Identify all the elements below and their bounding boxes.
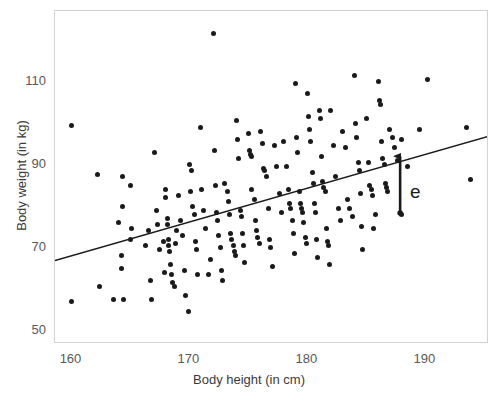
residual-base-point [397, 210, 403, 216]
x-tick-label: 170 [158, 352, 218, 365]
residual-label: e [410, 182, 421, 201]
x-tick-label: 160 [41, 352, 101, 365]
regression-line [55, 135, 487, 261]
x-tick-label: 180 [276, 352, 336, 365]
regression-and-annotation-layer [55, 11, 487, 342]
y-tick-label: 50 [0, 323, 46, 336]
x-axis-title: Body height (in cm) [0, 372, 498, 387]
x-tick-label: 190 [394, 352, 454, 365]
scatter-plot-figure: 507090110 Body weight (in kg) e 16017018… [0, 0, 498, 396]
plot-area: e [54, 10, 488, 343]
y-axis-title: Body weight (in kg) [14, 76, 29, 276]
